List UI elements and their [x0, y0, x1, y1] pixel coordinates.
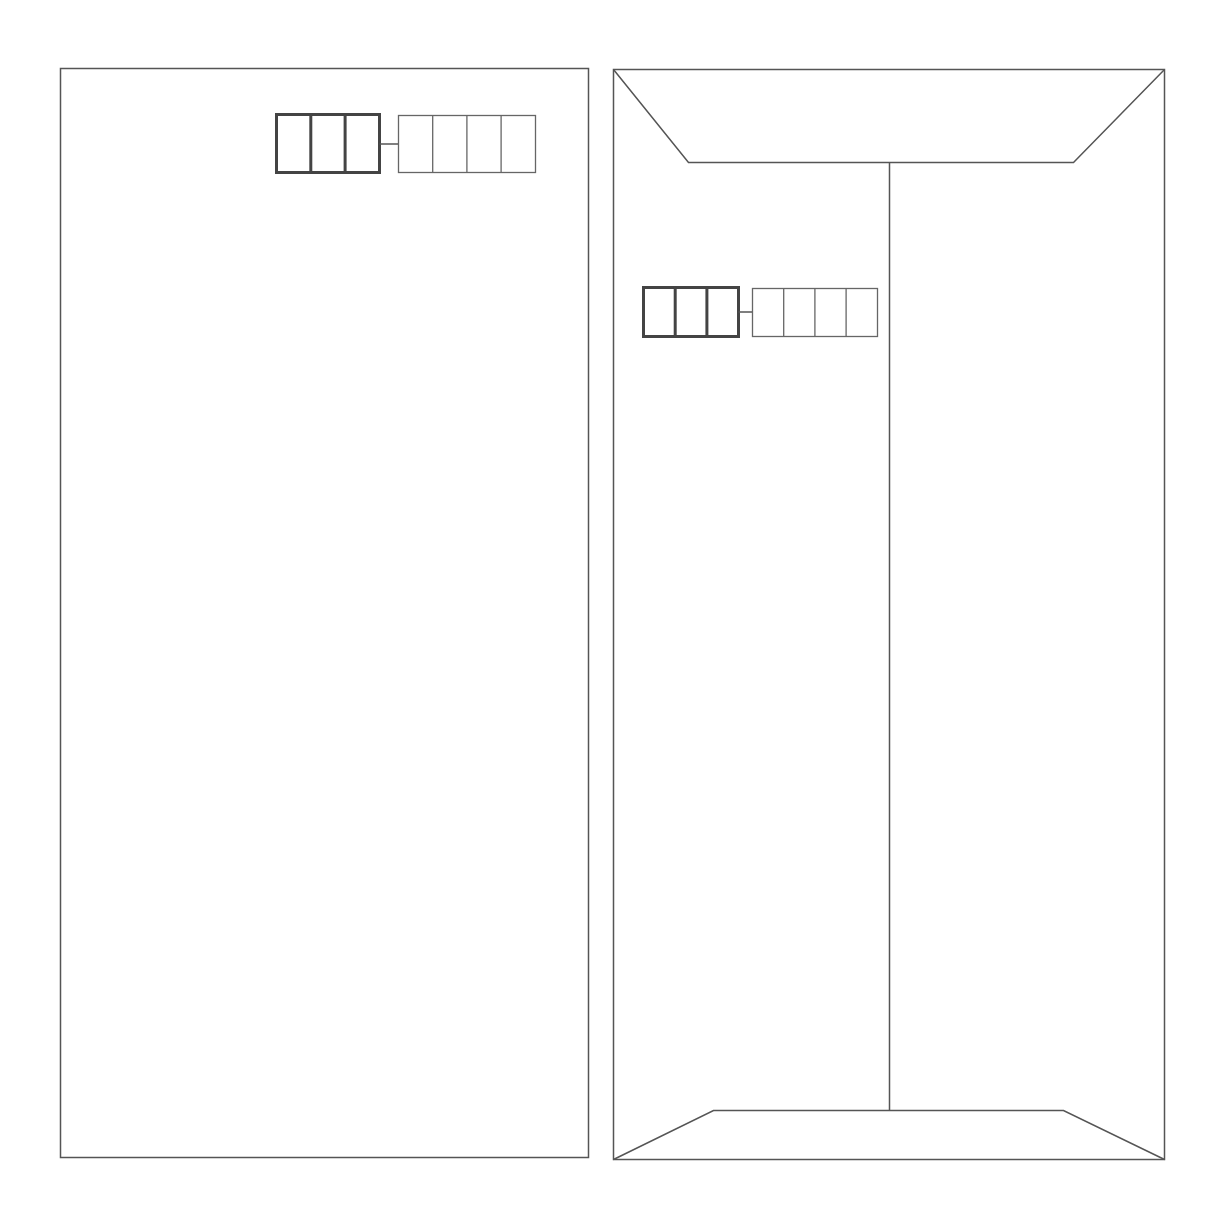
postal-code-thick-box [277, 115, 380, 173]
envelope-diagram [0, 0, 1221, 1205]
front-envelope-outline [61, 69, 589, 1158]
envelope-front [61, 69, 589, 1158]
top-flap [614, 70, 1165, 163]
back-postal-code-boxes [644, 288, 878, 337]
envelope-back [614, 70, 1165, 1160]
front-postal-code-boxes [277, 115, 536, 173]
bottom-flap [614, 1111, 1165, 1160]
postal-code-thick-box [644, 288, 739, 337]
